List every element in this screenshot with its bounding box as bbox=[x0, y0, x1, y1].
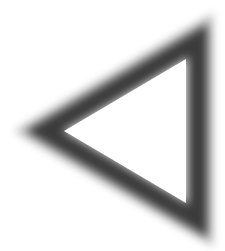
triangle-left-outline-icon bbox=[0, 0, 225, 251]
